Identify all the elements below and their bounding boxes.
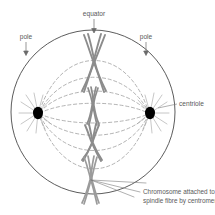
chromatid-arm (88, 34, 106, 91)
pole-right-label: pole (140, 33, 153, 41)
equator-arrow (92, 19, 97, 33)
caption-leader-line (91, 180, 134, 197)
equator-arrow-head (92, 29, 97, 34)
centriole-left (33, 107, 43, 119)
caption-leader-lines (91, 180, 146, 197)
pole-left-label: pole (20, 33, 33, 41)
chromosome-1 (82, 34, 106, 92)
mitosis-metaphase-diagram: equator pole pole centriole Chromosome a… (0, 0, 215, 215)
equator-label: equator (83, 10, 106, 18)
pole-right-arrow-head (144, 51, 149, 56)
spindle-fibre-lower-4 (40, 117, 148, 169)
caption-line-1: Chromosome attached to (143, 188, 215, 195)
pole-left-arrow (24, 42, 29, 56)
caption-leader-line (91, 180, 140, 192)
chromosome-2 (87, 87, 99, 125)
caption-line-2: spindle fibre by centromere. (143, 197, 215, 205)
chromatid-arm (82, 124, 96, 160)
pole-left-arrow-head (24, 51, 29, 56)
pole-right-arrow (144, 42, 149, 56)
diagram-canvas: equator pole pole centriole Chromosome a… (0, 0, 215, 215)
chromatid-arm (82, 34, 101, 91)
centriole-label: centriole (179, 100, 204, 107)
chromosome-3 (82, 124, 102, 161)
centriole-right (145, 107, 155, 119)
